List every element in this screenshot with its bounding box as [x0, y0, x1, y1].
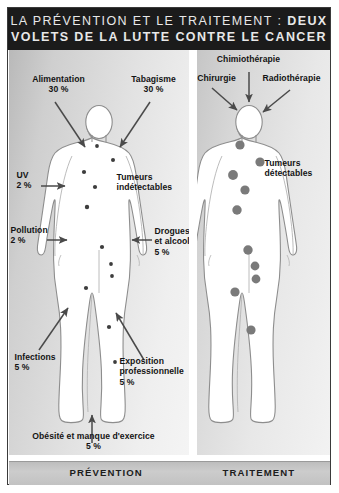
- panels-container: Alimentation 30 % Tabagisme 30 % UV 2 % …: [9, 50, 330, 455]
- prevention-panel: Alimentation 30 % Tabagisme 30 % UV 2 % …: [9, 50, 189, 455]
- title-line-1-light: LA PRÉVENTION ET LE TRAITEMENT :: [10, 14, 287, 28]
- title-line-1-bold: DEUX: [287, 14, 327, 28]
- label-tumeurs-indetectables: Tumeurs indétectables: [117, 172, 187, 193]
- traitement-panel: Chimiothérapie Chirurgie Radiothérapie T…: [197, 50, 330, 455]
- human-body-silhouette: [197, 106, 297, 423]
- head-shape: [85, 106, 111, 139]
- arrow-chirurgie: [212, 88, 237, 110]
- label-obesite: Obésité et manque d'exercice 5 %: [14, 431, 174, 452]
- footer-band: PRÉVENTION TRAITEMENT: [9, 461, 330, 485]
- label-drogues-alcool: Drogues et alcool 5 %: [155, 226, 189, 257]
- arrow-radiotherapie: [263, 90, 290, 112]
- label-radiotherapie: Radiothérapie: [259, 73, 325, 83]
- title-line-1: LA PRÉVENTION ET LE TRAITEMENT : DEUX: [10, 13, 327, 29]
- label-chimiotherapie: Chimiothérapie: [209, 54, 289, 64]
- title-line-2: VOLETS DE LA LUTTE CONTRE LE CANCER: [11, 29, 327, 46]
- arrow-alimentation: [55, 102, 85, 147]
- label-infections: Infections 5 %: [15, 352, 79, 373]
- label-pollution: Pollution 2 %: [11, 225, 57, 246]
- footer-label-prevention: PRÉVENTION: [70, 467, 143, 478]
- head-shape: [235, 106, 261, 139]
- arrow-tabagisme: [120, 102, 150, 147]
- poster-title-bar: LA PRÉVENTION ET LE TRAITEMENT : DEUX VO…: [8, 8, 330, 50]
- label-exposition-professionnelle: Exposition professionnelle 5 %: [120, 356, 189, 387]
- label-alimentation: Alimentation 30 %: [20, 74, 98, 95]
- label-uv: UV 2 %: [17, 170, 51, 191]
- label-tabagisme: Tabagisme 30 %: [122, 74, 186, 95]
- footer-label-traitement: TRAITEMENT: [223, 467, 296, 478]
- label-tumeurs-detectables: Tumeurs détectables: [265, 158, 327, 179]
- infographic-poster: LA PRÉVENTION ET LE TRAITEMENT : DEUX VO…: [0, 0, 339, 493]
- label-chirurgie: Chirurgie: [197, 73, 243, 83]
- traitement-figure-graphic: [197, 50, 330, 455]
